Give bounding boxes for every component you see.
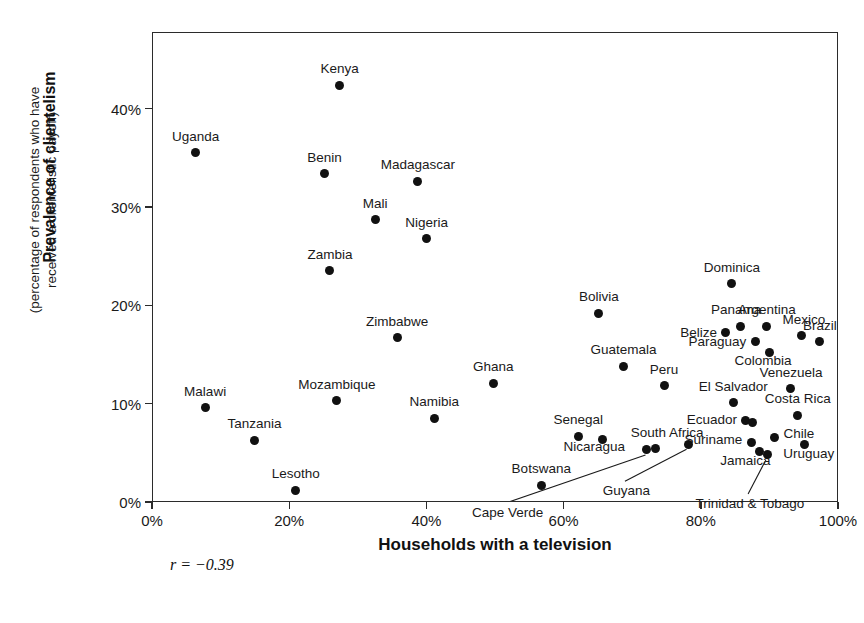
point-label: Zambia	[307, 247, 352, 261]
point-label: Bolivia	[579, 290, 619, 304]
y-axis-tick	[145, 501, 152, 502]
data-point	[747, 438, 756, 447]
x-axis-tick-label: 100%	[819, 512, 857, 529]
x-axis-tick-label: 20%	[274, 512, 304, 529]
data-point	[651, 444, 660, 453]
data-point	[727, 279, 736, 288]
data-point	[191, 148, 200, 157]
y-axis-subtitle-line-1: (percentage of respondents who have	[27, 35, 44, 365]
point-label: Nigeria	[405, 215, 448, 229]
data-point	[489, 379, 498, 388]
point-label: South Africa	[631, 425, 704, 439]
point-label: Chile	[784, 427, 815, 441]
data-point	[815, 337, 824, 346]
point-label: Uruguay	[783, 446, 834, 460]
correlation-annotation: r = −0.39	[170, 556, 234, 574]
point-label: Panama	[711, 303, 761, 317]
data-point	[393, 333, 402, 342]
leader-label: Guyana	[603, 484, 650, 498]
y-axis-tick-label: 10%	[111, 395, 141, 412]
data-point	[642, 445, 651, 454]
point-label: Peru	[650, 362, 679, 376]
point-label: Mali	[363, 196, 388, 210]
data-point	[335, 81, 344, 90]
point-label: Guatemala	[591, 343, 657, 357]
data-point	[430, 414, 439, 423]
point-label: Madagascar	[381, 158, 455, 172]
data-point	[537, 481, 546, 490]
y-axis-subtitle-line-2: received a clientelistic payoff)	[44, 35, 61, 365]
data-point	[729, 398, 738, 407]
x-axis-tick	[151, 502, 152, 509]
point-label: Venezuela	[759, 365, 822, 379]
point-label: Mozambique	[298, 377, 375, 391]
x-axis-tick-label: 40%	[411, 512, 441, 529]
leader-label: Cape Verde	[472, 505, 543, 519]
data-point	[320, 169, 329, 178]
x-axis-title: Households with a television	[152, 535, 838, 555]
data-point	[250, 436, 259, 445]
point-label: Senegal	[554, 413, 604, 427]
y-axis-tick	[145, 403, 152, 404]
data-point	[291, 486, 300, 495]
point-label: Botswana	[512, 462, 571, 476]
point-label: Brazil	[803, 318, 837, 332]
x-axis-tick	[563, 502, 564, 509]
y-axis-tick	[145, 206, 152, 207]
data-point	[332, 396, 341, 405]
y-axis-tick-label: 30%	[111, 199, 141, 216]
x-axis-tick	[837, 502, 838, 509]
data-point	[748, 418, 757, 427]
y-axis-tick	[145, 108, 152, 109]
data-point	[422, 234, 431, 243]
data-point	[660, 381, 669, 390]
point-label: Costa Rica	[765, 392, 831, 406]
data-point	[325, 266, 334, 275]
data-point	[371, 215, 380, 224]
point-label: Nicaragua	[564, 440, 626, 454]
data-point	[751, 337, 760, 346]
point-label: Zimbabwe	[366, 314, 428, 328]
x-axis-tick-label: 60%	[549, 512, 579, 529]
point-label: Lesotho	[272, 467, 320, 481]
data-point	[594, 309, 603, 318]
point-label: Ghana	[473, 360, 514, 374]
point-label: Benin	[307, 150, 342, 164]
data-point	[797, 331, 806, 340]
data-point	[619, 362, 628, 371]
data-point	[201, 403, 210, 412]
x-axis-tick	[426, 502, 427, 509]
point-label: Paraguay	[689, 335, 747, 349]
data-points-layer: KenyaUgandaBeninMadagascarMaliNigeriaZam…	[153, 33, 837, 501]
point-label: Tanzania	[227, 417, 281, 431]
y-axis-tick-label: 40%	[111, 100, 141, 117]
x-axis-tick	[289, 502, 290, 509]
data-point	[793, 411, 802, 420]
plot-area: KenyaUgandaBeninMadagascarMaliNigeriaZam…	[152, 32, 838, 502]
x-axis-tick	[700, 502, 701, 509]
leader-label: Trinidad & Tobago	[695, 496, 804, 510]
data-point	[763, 450, 772, 459]
point-label: Namibia	[409, 395, 459, 409]
scatter-plot-figure: 0%10%20%30%40% Prevalence of clientelism…	[0, 0, 864, 623]
point-label: El Salvador	[699, 379, 768, 393]
y-axis-title-sub: (percentage of respondents who have rece…	[27, 35, 67, 365]
data-point	[736, 322, 745, 331]
data-point	[413, 177, 422, 186]
data-point	[684, 440, 693, 449]
y-axis-tick-label: 0%	[119, 494, 141, 511]
y-axis-tick	[145, 305, 152, 306]
point-label: Malawi	[184, 384, 226, 398]
y-axis-tick-label: 20%	[111, 297, 141, 314]
data-point	[762, 322, 771, 331]
point-label: Uganda	[172, 129, 219, 143]
point-label: Kenya	[320, 62, 358, 76]
data-point	[770, 433, 779, 442]
x-axis-tick-label: 0%	[141, 512, 163, 529]
point-label: Dominica	[704, 260, 760, 274]
x-axis-tick-label: 80%	[686, 512, 716, 529]
